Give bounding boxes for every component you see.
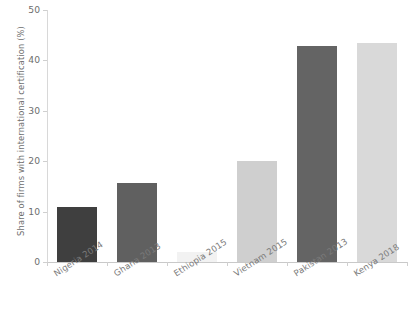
y-axis-tick: 0 <box>0 262 47 263</box>
x-tick-mark <box>47 262 48 266</box>
y-axis-tick: 10 <box>0 212 47 213</box>
y-axis-tick: 50 <box>0 10 47 11</box>
x-tick-mark <box>287 262 288 266</box>
y-axis-tick: 30 <box>0 111 47 112</box>
y-tick-label: 50 <box>28 4 40 16</box>
x-tick-mark <box>347 262 348 266</box>
y-axis-title: Share of firms with international certif… <box>14 0 28 262</box>
bar-chart: Share of firms with international certif… <box>0 0 412 329</box>
y-tick-label: 0 <box>34 256 40 268</box>
y-axis-tick: 40 <box>0 60 47 61</box>
x-tick-mark <box>407 262 408 266</box>
x-tick-mark <box>227 262 228 266</box>
plot-area <box>47 10 407 262</box>
bar <box>297 46 337 262</box>
x-tick-mark <box>167 262 168 266</box>
y-tick-label: 40 <box>28 54 40 66</box>
x-tick-mark <box>107 262 108 266</box>
y-axis-tick: 20 <box>0 161 47 162</box>
y-tick-label: 20 <box>28 155 40 167</box>
bar <box>357 43 397 262</box>
y-tick-label: 10 <box>28 206 40 218</box>
y-tick-label: 30 <box>28 105 40 117</box>
